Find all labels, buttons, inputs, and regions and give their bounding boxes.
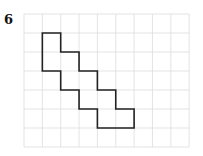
grid-figure <box>0 0 203 156</box>
grid-lines <box>24 14 189 147</box>
staircase-shape <box>42 33 134 128</box>
